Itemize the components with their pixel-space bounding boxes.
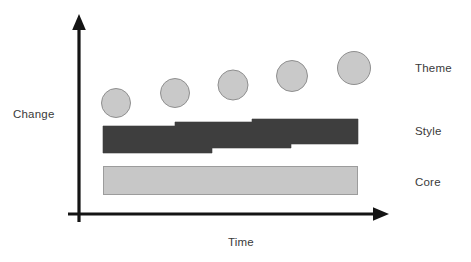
- layer-label-style: Style: [415, 125, 442, 137]
- style-band-group: [103, 119, 358, 153]
- core-band-group: [104, 167, 358, 195]
- theme-circle-1: [102, 89, 131, 118]
- theme-circle-5: [338, 52, 371, 85]
- diagram-svg: [0, 0, 471, 262]
- theme-markers-group: [102, 52, 371, 118]
- theme-circle-3: [218, 70, 248, 100]
- x-axis-arrowhead: [373, 207, 389, 221]
- y-axis-label: Change: [13, 108, 54, 120]
- diagram-canvas: Change Time Theme Style Core: [0, 0, 471, 262]
- y-axis-arrowhead: [72, 14, 86, 30]
- core-band: [104, 167, 358, 195]
- theme-circle-2: [161, 79, 190, 108]
- theme-circle-4: [277, 61, 308, 92]
- x-axis-label: Time: [228, 236, 254, 248]
- layer-label-core: Core: [415, 176, 441, 188]
- style-band-step-path: [103, 119, 358, 153]
- layer-label-theme: Theme: [415, 62, 452, 74]
